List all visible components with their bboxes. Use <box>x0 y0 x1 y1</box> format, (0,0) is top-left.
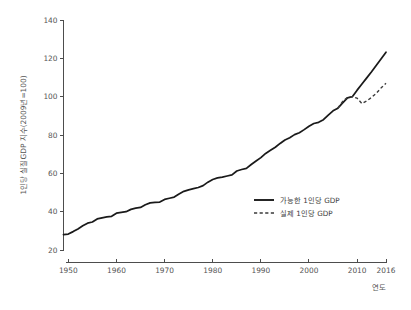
x-tick-label: 1950 <box>59 266 78 275</box>
y-tick-label: 60 <box>48 169 58 178</box>
series-line-potential <box>64 52 387 234</box>
x-tick-label: 1980 <box>203 266 222 275</box>
series-line-actual <box>338 83 386 108</box>
legend-label-actual: 실제 1인당 GDP <box>280 209 333 218</box>
x-tick-label: 2010 <box>348 266 367 275</box>
y-tick-label: 140 <box>43 16 57 25</box>
y-tick-label: 100 <box>43 92 57 101</box>
y-axis-title: 1인당 실질GDP 지수(2009년=100) <box>19 75 28 194</box>
chart-container: 20406080100120140 1인당 실질GDP 지수(2009년=100… <box>0 0 411 310</box>
line-chart: 20406080100120140 1인당 실질GDP 지수(2009년=100… <box>0 0 411 310</box>
chart-legend: 가능한 1인당 GDP 실제 1인당 GDP <box>254 196 340 218</box>
y-axis-ticks: 20406080100120140 <box>43 16 63 255</box>
y-tick-label: 120 <box>43 54 57 63</box>
x-tick-label: 1990 <box>251 266 270 275</box>
data-series-group <box>64 52 387 234</box>
x-axis-ticks: 19501960197019801990200020102016 <box>59 259 396 275</box>
x-tick-label: 2000 <box>300 266 319 275</box>
y-tick-label: 40 <box>48 207 58 216</box>
x-tick-label: 1970 <box>155 266 174 275</box>
y-tick-label: 80 <box>48 131 58 140</box>
y-tick-label: 20 <box>48 246 58 255</box>
x-axis: 19501960197019801990200020102016 연도 <box>59 259 396 292</box>
y-axis: 20406080100120140 1인당 실질GDP 지수(2009년=100… <box>19 16 64 255</box>
x-tick-label: 2016 <box>377 266 396 275</box>
x-axis-title: 연도 <box>372 283 386 292</box>
legend-label-potential: 가능한 1인당 GDP <box>280 196 340 205</box>
x-tick-label: 1960 <box>107 266 126 275</box>
